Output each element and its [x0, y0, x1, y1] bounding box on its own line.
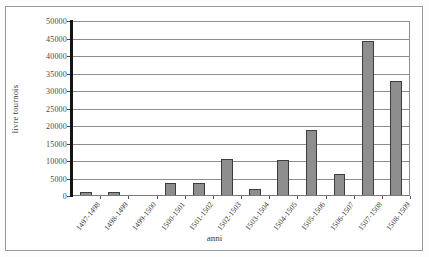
bar — [390, 81, 402, 197]
y-axis-tick-label: 15000 — [15, 139, 67, 148]
x-axis-tick-mark — [354, 196, 355, 199]
y-axis-tick-label: 50000 — [15, 17, 67, 26]
gridline — [72, 126, 410, 127]
gridline — [72, 161, 410, 162]
x-axis-tick-mark — [297, 196, 298, 199]
x-axis-tick-mark — [269, 196, 270, 199]
plot-area — [72, 21, 410, 196]
bar — [362, 41, 374, 196]
x-axis-title: anni — [0, 233, 429, 243]
bar — [165, 183, 177, 196]
x-axis-tick-mark — [157, 196, 158, 199]
gridline — [72, 39, 410, 40]
x-axis-tick-mark — [241, 196, 242, 199]
x-axis-tick-mark — [382, 196, 383, 199]
chart-figure: livre tournois anni 05000100001500020000… — [0, 0, 429, 257]
gridline — [72, 179, 410, 180]
bar — [277, 160, 289, 196]
x-axis-tick-mark — [326, 196, 327, 199]
y-axis-tick-label: 5000 — [15, 174, 67, 183]
gridline — [72, 109, 410, 110]
y-axis-tick-label: 30000 — [15, 87, 67, 96]
x-axis-tick-mark — [100, 196, 101, 199]
y-axis-tick-label: 0 — [15, 192, 67, 201]
y-axis-tick-label: 10000 — [15, 157, 67, 166]
y-axis-tick-label: 35000 — [15, 69, 67, 78]
bar — [80, 192, 92, 196]
bar — [249, 189, 261, 196]
y-axis-tick-label: 45000 — [15, 34, 67, 43]
x-axis-tick-mark — [410, 196, 411, 199]
bar — [221, 159, 233, 196]
bar — [334, 174, 346, 196]
x-axis-tick-mark — [213, 196, 214, 199]
gridline — [72, 56, 410, 57]
x-axis-tick-mark — [128, 196, 129, 199]
gridline — [72, 21, 410, 22]
y-axis-line — [70, 20, 73, 197]
y-axis-tick-label: 40000 — [15, 52, 67, 61]
bar — [193, 183, 205, 196]
bar — [306, 130, 318, 197]
gridline — [72, 144, 410, 145]
bar — [108, 192, 120, 196]
gridline — [72, 74, 410, 75]
y-axis-tick-label: 25000 — [15, 104, 67, 113]
gridline — [72, 91, 410, 92]
x-axis-tick-mark — [185, 196, 186, 199]
y-axis-tick-label: 20000 — [15, 122, 67, 131]
